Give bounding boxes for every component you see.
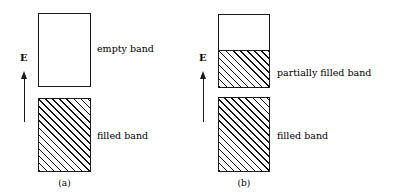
- filled-band-label-a: filled band: [97, 130, 148, 141]
- empty-band-label-a: empty band: [97, 43, 154, 54]
- filled-band-hatch-a: [39, 99, 90, 171]
- band-diagram-figure: E empty band filled band (a) E partially…: [0, 0, 415, 196]
- filled-band-hatch-b: [219, 98, 269, 171]
- arrow-shaft-b: [203, 77, 204, 122]
- partially-filled-band-hatch-b: [219, 51, 269, 87]
- energy-axis-label-a: E: [20, 53, 28, 63]
- filled-band-box-a: [38, 98, 91, 172]
- partially-filled-band-box-b: [218, 14, 270, 88]
- panel-caption-b: (b): [218, 178, 270, 189]
- filled-band-label-b: filled band: [277, 130, 328, 141]
- partially-filled-band-label-b: partially filled band: [277, 67, 371, 78]
- filled-band-box-b: [218, 97, 270, 172]
- arrow-shaft-a: [24, 77, 25, 122]
- up-arrow-icon-b: [198, 71, 209, 122]
- empty-band-box-a: [38, 13, 91, 87]
- energy-axis-label-b: E: [199, 53, 207, 63]
- up-arrow-icon-a: [19, 71, 30, 122]
- panel-caption-a: (a): [38, 178, 91, 189]
